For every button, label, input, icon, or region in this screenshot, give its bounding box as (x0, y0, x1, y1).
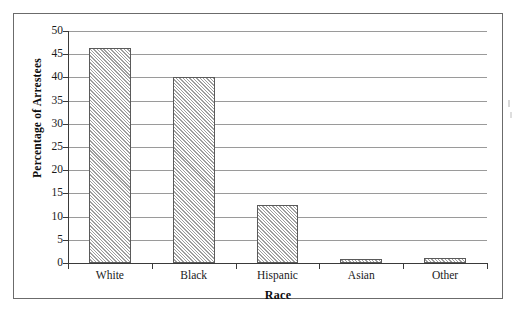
y-axis-tick-label: 25 (23, 141, 63, 153)
x-axis-tick (236, 264, 237, 269)
x-axis-tick-label: Other (403, 270, 487, 282)
x-axis-tick (152, 264, 153, 269)
x-axis-tick (68, 264, 69, 269)
y-axis-tick (63, 77, 68, 78)
y-axis-tick-label: 20 (23, 164, 63, 176)
gridline (68, 124, 487, 125)
x-axis-tick-label: White (68, 270, 152, 282)
scan-artifact (508, 100, 510, 107)
y-axis-tick-label: 0 (23, 257, 63, 269)
y-axis-tick-label: 15 (23, 187, 63, 199)
x-axis-line (68, 263, 488, 264)
y-axis-tick-label: 45 (23, 48, 63, 60)
gridline (68, 77, 487, 78)
x-axis-tick (319, 264, 320, 269)
y-axis-tick-label: 40 (23, 71, 63, 83)
y-axis-tick (63, 31, 68, 32)
gridline (68, 31, 487, 32)
gridline (68, 54, 487, 55)
y-axis-tick-label: 5 (23, 234, 63, 246)
scan-artifact (510, 112, 512, 118)
y-axis-tick-label: 10 (23, 211, 63, 223)
x-axis-tick (403, 264, 404, 269)
x-axis-tick (487, 264, 488, 269)
x-axis-tick-label: Black (152, 270, 236, 282)
bar-black (173, 77, 215, 263)
y-axis-tick (63, 124, 68, 125)
gridline (68, 147, 487, 148)
y-axis-tick-label: 50 (23, 25, 63, 37)
y-axis-tick-label: 35 (23, 95, 63, 107)
x-axis-title: Race (68, 288, 488, 303)
chart-figure: 05101520253035404550 Percentage of Arres… (0, 0, 519, 318)
y-axis-tick (63, 217, 68, 218)
bar-hispanic (257, 205, 299, 263)
plot-area (68, 31, 487, 263)
y-axis-tick (63, 170, 68, 171)
y-axis-tick-label: 30 (23, 118, 63, 130)
y-axis-line (68, 31, 69, 264)
y-axis-title: Percentage of Arrestees (31, 18, 43, 218)
y-axis-tick (63, 54, 68, 55)
x-axis-tick-label: Asian (319, 270, 403, 282)
y-axis-tick (63, 147, 68, 148)
y-axis-tick (63, 101, 68, 102)
y-axis-tick (63, 193, 68, 194)
gridline (68, 170, 487, 171)
gridline (68, 101, 487, 102)
y-axis-tick (63, 240, 68, 241)
x-axis-tick-label: Hispanic (236, 270, 320, 282)
gridline (68, 193, 487, 194)
bar-white (89, 48, 131, 263)
